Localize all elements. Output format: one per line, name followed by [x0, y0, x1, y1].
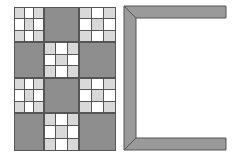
frame-top-bar: [124, 6, 226, 18]
mitered-border-frame: [0, 0, 238, 160]
frame-bottom-bar: [124, 138, 226, 150]
frame-left-bar: [124, 6, 136, 150]
